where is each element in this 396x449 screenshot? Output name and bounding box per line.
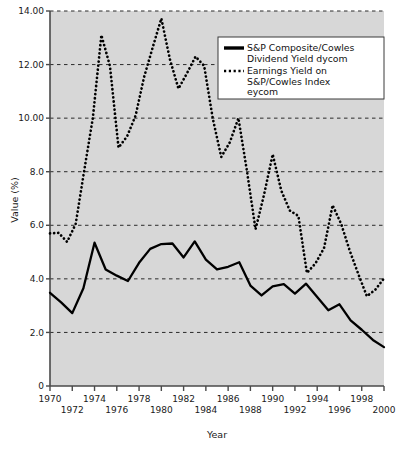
x-tick-label: 2000 xyxy=(373,405,396,415)
x-tick-label: 1978 xyxy=(128,394,151,404)
y-tick-label: 0 xyxy=(38,381,44,391)
x-tick-label: 1988 xyxy=(239,405,262,415)
x-tick-label: 1998 xyxy=(350,394,373,404)
legend-label-eycom-line2: S&P/Cowles Index xyxy=(247,76,331,87)
x-tick-label: 1992 xyxy=(283,405,306,415)
chart-figure: 1970197219741976197819801982198419861988… xyxy=(0,0,396,449)
legend-label-eycom-line3: eycom xyxy=(247,86,278,97)
y-tick-label: 12.00 xyxy=(18,60,44,70)
y-axis-label: Value (%) xyxy=(9,177,20,223)
x-tick-label: 1972 xyxy=(61,405,84,415)
x-tick-label: 1982 xyxy=(172,394,195,404)
legend: S&P Composite/Cowles Dividend Yield dyco… xyxy=(218,37,384,99)
x-tick-label: 1970 xyxy=(39,394,62,404)
y-tick-label: 4.0 xyxy=(30,274,45,284)
y-tick-label: 6.0 xyxy=(30,220,45,230)
legend-label-eycom-line1: Earnings Yield on xyxy=(247,65,327,76)
x-tick-label: 1990 xyxy=(261,394,284,404)
x-axis-label: Year xyxy=(206,429,227,440)
x-tick-label: 1996 xyxy=(328,405,351,415)
y-tick-label: 14.00 xyxy=(18,6,44,16)
y-tick-label: 8.0 xyxy=(30,167,45,177)
x-tick-label: 1980 xyxy=(150,405,173,415)
x-tick-label: 1994 xyxy=(306,394,329,404)
x-tick-label: 1986 xyxy=(217,394,240,404)
y-tick-label: 10.00 xyxy=(18,113,44,123)
legend-label-dycom-line2: Dividend Yield dycom xyxy=(247,53,348,64)
x-tick-label: 1984 xyxy=(194,405,217,415)
legend-label-dycom-line1: S&P Composite/Cowles xyxy=(247,42,355,53)
x-tick-label: 1974 xyxy=(83,394,106,404)
x-tick-label: 1976 xyxy=(105,405,128,415)
line-chart: 1970197219741976197819801982198419861988… xyxy=(0,0,396,449)
y-tick-label: 2.0 xyxy=(30,328,45,338)
